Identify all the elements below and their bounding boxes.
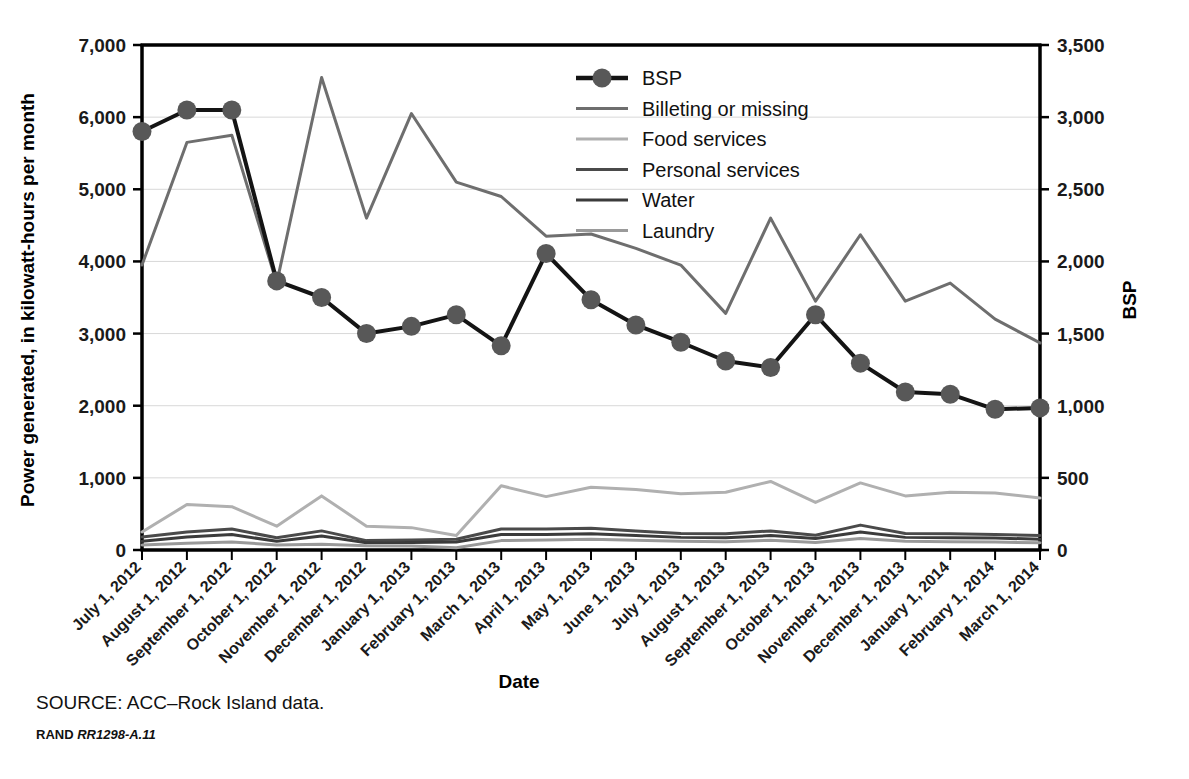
secondary-y-axis-tick-label: 500: [1057, 468, 1089, 489]
y-axis-tick-label: 6,000: [78, 107, 126, 128]
data-point-marker: [761, 358, 780, 377]
rand-brand-label: RAND: [36, 727, 74, 742]
legend-item-bsp: BSP: [576, 67, 682, 89]
legend-item-food-services: Food services: [576, 128, 767, 150]
legend-item-water: Water: [576, 189, 695, 211]
data-point-marker: [402, 317, 421, 336]
legend-item-laundry: Laundry: [576, 220, 714, 242]
power-generation-line-chart: 01,0002,0003,0004,0005,0006,0007,000 050…: [0, 0, 1189, 779]
secondary-y-axis-title: BSP: [1119, 280, 1140, 319]
data-point-marker: [492, 336, 511, 355]
y-axis-tick-label: 4,000: [78, 251, 126, 272]
secondary-y-axis-tick-label: 2,500: [1057, 179, 1105, 200]
secondary-y-axis-tick-labels: 05001,0001,5002,0002,5003,0003,500: [1057, 35, 1105, 561]
secondary-y-axis-tick-label: 3,000: [1057, 107, 1105, 128]
legend-swatch-marker: [593, 69, 612, 88]
data-point-marker: [582, 290, 601, 309]
data-point-marker: [267, 271, 286, 290]
y-axis-tick-labels: 01,0002,0003,0004,0005,0006,0007,000: [78, 35, 126, 561]
x-axis-ticks: [142, 550, 1040, 560]
y-axis-tick-label: 0: [115, 540, 126, 561]
y-axis-tick-label: 1,000: [78, 468, 126, 489]
data-point-marker: [177, 100, 196, 119]
y-axis-tick-label: 3,000: [78, 324, 126, 345]
secondary-y-axis-tick-label: 0: [1057, 540, 1068, 561]
y-axis-title: Power generated, in kilowatt-hours per m…: [17, 93, 38, 507]
x-axis-tick-labels: July 1, 2012August 1, 2012September 1, 2…: [69, 558, 1043, 669]
data-point-marker: [357, 324, 376, 343]
source-note: SOURCE: ACC–Rock Island data.: [36, 692, 324, 714]
data-point-marker: [447, 305, 466, 324]
rand-report-id: RAND RR1298-A.11: [36, 727, 156, 742]
data-point-marker: [537, 244, 556, 263]
data-point-marker: [626, 315, 645, 334]
secondary-y-axis-tick-label: 1,000: [1057, 396, 1105, 417]
figure-container: 01,0002,0003,0004,0005,0006,0007,000 050…: [0, 0, 1189, 779]
data-point-marker: [941, 385, 960, 404]
series-bsp: [133, 100, 1050, 418]
legend-label: Laundry: [642, 220, 714, 242]
data-point-marker: [133, 122, 152, 141]
data-point-marker: [671, 333, 690, 352]
rand-id-label: RR1298-A.11: [77, 727, 156, 742]
data-point-marker: [806, 305, 825, 324]
legend-label: Personal services: [642, 159, 800, 181]
secondary-y-axis-tick-label: 2,000: [1057, 251, 1105, 272]
y-axis-tick-label: 2,000: [78, 396, 126, 417]
data-point-marker: [312, 288, 331, 307]
x-axis-tick-label: March 1, 2013: [417, 558, 503, 644]
y-axis-tick-label: 7,000: [78, 35, 126, 56]
data-point-marker: [896, 383, 915, 402]
data-series-layer: [133, 77, 1050, 547]
legend-label: Billeting or missing: [642, 98, 809, 120]
data-point-marker: [986, 400, 1005, 419]
data-point-marker: [1031, 398, 1050, 417]
y-axis-tick-label: 5,000: [78, 179, 126, 200]
data-point-marker: [222, 100, 241, 119]
x-axis-title: Date: [498, 671, 539, 692]
x-axis-tick-label: March 1, 2014: [956, 558, 1042, 644]
legend-label: Food services: [642, 128, 767, 150]
secondary-y-axis-tick-label: 1,500: [1057, 324, 1105, 345]
secondary-y-axis-tick-label: 3,500: [1057, 35, 1105, 56]
legend-label: BSP: [642, 67, 682, 89]
chart-legend: BSPBilleting or missingFood servicesPers…: [576, 67, 809, 242]
series-line: [142, 110, 1040, 409]
legend-label: Water: [642, 189, 695, 211]
legend-item-personal-services: Personal services: [576, 159, 800, 181]
legend-item-billeting-or-missing: Billeting or missing: [576, 98, 809, 120]
data-point-marker: [851, 354, 870, 373]
data-point-marker: [716, 351, 735, 370]
